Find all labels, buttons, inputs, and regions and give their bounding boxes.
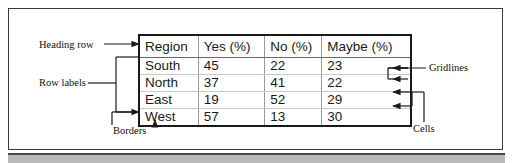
data-cell: 19 [198, 92, 265, 109]
callout-label-borders: Borders [113, 126, 146, 137]
data-cell: 52 [265, 92, 322, 109]
data-cell: 37 [198, 75, 265, 92]
data-cell: 57 [198, 109, 265, 127]
data-cell: 41 [265, 75, 322, 92]
table-row: Region Yes (%) No (%) Maybe (%) [139, 35, 411, 58]
column-header-yes: Yes (%) [198, 35, 265, 58]
data-cell: 29 [322, 92, 411, 109]
table-row: South 45 22 23 [139, 58, 411, 75]
data-cell: 30 [322, 109, 411, 127]
row-label-cell: North [139, 75, 198, 92]
callout-label-cells: Cells [413, 124, 435, 135]
data-cell: 22 [322, 75, 411, 92]
callout-label-row-labels: Row labels [39, 78, 86, 89]
table-body: South 45 22 23 North 37 41 22 East 19 52… [139, 58, 411, 127]
callout-label-heading-row: Heading row [39, 40, 94, 51]
row-label-cell: East [139, 92, 198, 109]
table-heading-row: Region Yes (%) No (%) Maybe (%) [139, 35, 411, 58]
data-cell: 45 [198, 58, 265, 75]
row-label-cell: West [139, 109, 198, 127]
column-header-no: No (%) [265, 35, 322, 58]
column-header-region: Region [139, 35, 198, 58]
table-row: East 19 52 29 [139, 92, 411, 109]
figure-page: Region Yes (%) No (%) Maybe (%) South 45… [0, 0, 514, 163]
data-table: Region Yes (%) No (%) Maybe (%) South 45… [138, 34, 412, 127]
data-cell: 22 [265, 58, 322, 75]
column-header-maybe: Maybe (%) [322, 35, 411, 58]
page-edge-band [8, 153, 505, 163]
table-row: West 57 13 30 [139, 109, 411, 127]
row-label-cell: South [139, 58, 198, 75]
table-row: North 37 41 22 [139, 75, 411, 92]
callout-label-gridlines: Gridlines [429, 63, 468, 74]
data-cell: 23 [322, 58, 411, 75]
data-cell: 13 [265, 109, 322, 127]
